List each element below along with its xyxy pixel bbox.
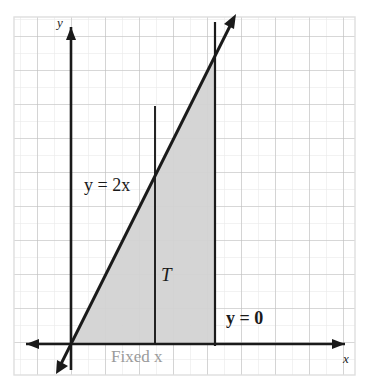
graph-figure: y = 2x y = 0 T Fixed x y x — [0, 0, 369, 385]
fixed-x-label: Fixed x — [111, 348, 162, 365]
baseline-equation-label: y = 0 — [226, 309, 263, 327]
graph-canvas — [0, 0, 369, 385]
region-label-T: T — [161, 265, 172, 284]
x-axis-label: x — [343, 352, 349, 365]
y-axis-label: y — [57, 16, 63, 29]
line-equation-label: y = 2x — [84, 176, 130, 194]
